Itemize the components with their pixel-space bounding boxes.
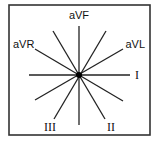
label-aVF: aVF [69, 9, 89, 21]
label-aVR: aVR [13, 38, 34, 50]
label-aVL: aVL [125, 38, 145, 50]
label-II: II [107, 120, 115, 134]
label-I: I [135, 68, 139, 82]
center-dot [76, 72, 82, 78]
label-III: III [44, 120, 56, 134]
hexaxial-diagram: aVF aVR aVL I II III [0, 0, 154, 142]
